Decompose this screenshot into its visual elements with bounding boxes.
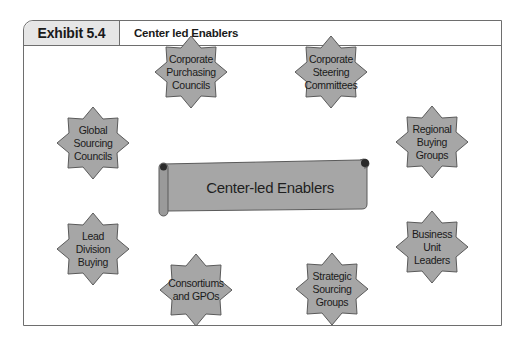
- enabler-label: LeadDivisionBuying: [57, 213, 129, 285]
- enabler-label: CorporateSteeringCommittees: [295, 36, 367, 108]
- enabler-star-global-sourcing-councils: GlobalSourcingCouncils: [57, 107, 129, 179]
- enabler-label: CorporatePurchasingCouncils: [155, 36, 227, 108]
- enabler-star-lead-division-buying: LeadDivisionBuying: [57, 213, 129, 285]
- enabler-star-consortiums-and-gpos: Consortiumsand GPOs: [160, 254, 232, 326]
- enabler-star-corporate-purchasing-councils: CorporatePurchasingCouncils: [155, 36, 227, 108]
- enabler-label: Consortiumsand GPOs: [160, 254, 232, 326]
- center-scroll-banner: Center-led Enablers: [155, 158, 373, 218]
- enabler-star-regional-buying-groups: RegionalBuyingGroups: [396, 106, 468, 178]
- center-label: Center-led Enablers: [175, 164, 365, 210]
- enabler-label: StrategicSourcingGroups: [296, 253, 368, 325]
- enabler-star-corporate-steering-committees: CorporateSteeringCommittees: [295, 36, 367, 108]
- enabler-label: GlobalSourcingCouncils: [57, 107, 129, 179]
- enabler-label: RegionalBuyingGroups: [396, 106, 468, 178]
- enabler-star-strategic-sourcing-groups: StrategicSourcingGroups: [296, 253, 368, 325]
- enabler-label: BusinessUnitLeaders: [396, 211, 468, 283]
- enabler-star-business-unit-leaders: BusinessUnitLeaders: [396, 211, 468, 283]
- enablers-diagram: Center-led Enablers CorporatePurchasingC…: [0, 0, 523, 358]
